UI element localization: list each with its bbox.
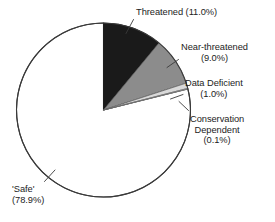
pie-label-near-threatened-value: (9.0%) (181, 53, 248, 64)
pie-label-near-threatened: Near-threatened (9.0%) (181, 42, 248, 63)
pie-label-threatened-text: Threatened (11.0%) (136, 7, 217, 18)
pie-label-safe-text: 'Safe' (12, 184, 44, 195)
pie-label-data-deficient: Data Deficient (1.0%) (185, 78, 243, 99)
pie-label-data-deficient-value: (1.0%) (185, 89, 243, 100)
pie-label-threatened: Threatened (11.0%) (136, 7, 217, 18)
pie-slices (16, 23, 190, 197)
pie-label-conservation-dependent: Conservation Dependent (0.1%) (190, 114, 244, 146)
pie-label-conservation-dependent-value: (0.1%) (190, 135, 244, 146)
pie-chart-figure: Threatened (11.0%) Near-threatened (9.0%… (0, 0, 275, 222)
pie-label-conservation-dependent-text1: Conservation (190, 114, 244, 125)
pie-label-near-threatened-text: Near-threatened (181, 42, 248, 53)
pie-label-safe-value: (78.9%) (12, 195, 44, 206)
pie-label-data-deficient-text: Data Deficient (185, 78, 243, 89)
pie-label-safe: 'Safe' (78.9%) (12, 184, 44, 205)
pie-label-conservation-dependent-text2: Dependent (190, 125, 244, 136)
